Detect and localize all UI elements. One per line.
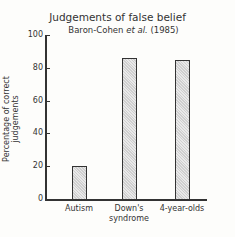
y-axis — [45, 35, 47, 200]
y-axis-label: Percentage of correct judgements — [2, 64, 20, 174]
y-tick-label: 20 — [19, 161, 43, 170]
x-axis — [45, 199, 207, 201]
y-tick — [45, 166, 50, 167]
y-tick — [45, 35, 50, 36]
y-tick-label: 0 — [19, 194, 43, 203]
x-tick-label: Down'ssyndrome — [99, 204, 159, 224]
chart-title: Judgements of false belief — [0, 11, 235, 23]
y-tick-label: 40 — [19, 128, 43, 137]
y-tick-label: 100 — [19, 30, 43, 39]
subtitle-author: Baron-Cohen — [68, 25, 126, 35]
bar-down-s-syndrome — [122, 58, 137, 199]
bar-4-year-olds — [175, 60, 190, 199]
y-tick — [45, 68, 50, 69]
bar-autism — [72, 166, 87, 199]
x-tick-label: 4-year-olds — [152, 204, 212, 214]
y-tick — [45, 199, 50, 200]
subtitle-year: (1985) — [148, 25, 179, 35]
y-tick — [45, 101, 50, 102]
subtitle-etal: et al. — [126, 25, 148, 35]
y-tick — [45, 133, 50, 134]
y-tick-label: 80 — [19, 63, 43, 72]
y-tick-label: 60 — [19, 96, 43, 105]
